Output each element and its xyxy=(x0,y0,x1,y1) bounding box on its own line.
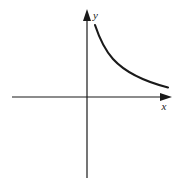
y-axis-label: y xyxy=(92,9,98,21)
coordinate-plot-svg: y x xyxy=(0,0,181,184)
y-axis-arrowhead-icon xyxy=(83,9,91,21)
figure-container: y x xyxy=(0,0,181,184)
decaying-curve-path xyxy=(95,25,168,88)
x-axis-label: x xyxy=(161,100,167,112)
